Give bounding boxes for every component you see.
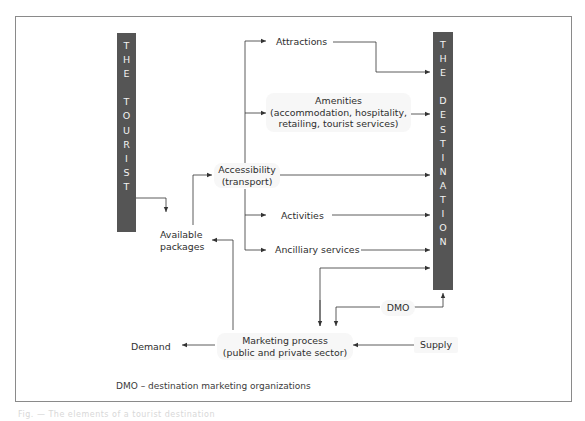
node-available-packages: Available packages (160, 229, 204, 252)
figure-caption: Fig. — The elements of a tourist destina… (18, 410, 215, 419)
accessibility-detail: (transport) (214, 176, 280, 188)
node-amenities: Amenities (accommodation, hospitality, r… (266, 93, 411, 132)
node-ancillary-services: Ancilliary services (275, 244, 360, 256)
amenities-title: Amenities (266, 95, 411, 107)
arrow-tourist-to-packages (136, 198, 166, 212)
node-demand: Demand (131, 341, 171, 353)
amenities-detail-2: retailing, tourist services) (266, 118, 411, 130)
arrow-dmo-to-marketing (336, 307, 380, 326)
arrow-attractions-to-destination (333, 42, 430, 72)
footnote: DMO – destination marketing organization… (116, 381, 311, 391)
amenities-detail-1: (accommodation, hospitality, (266, 107, 411, 119)
node-dmo: DMO (381, 300, 415, 316)
accessibility-title: Accessibility (214, 164, 280, 176)
available-line-1: Available (160, 229, 204, 241)
marketing-title: Marketing process (217, 335, 353, 347)
available-line-2: packages (160, 241, 204, 253)
arrow-dmo-to-destination (414, 293, 443, 307)
node-supply: Supply (414, 337, 458, 353)
node-attractions: Attractions (276, 36, 327, 48)
marketing-detail: (public and private sector) (217, 347, 353, 359)
node-activities: Activities (281, 210, 324, 222)
node-marketing-process: Marketing process (public and private se… (217, 333, 353, 360)
arrow-packages-to-accessibility (193, 175, 212, 225)
arrow-marketing-to-packages (212, 240, 233, 330)
node-accessibility: Accessibility (transport) (214, 163, 280, 188)
